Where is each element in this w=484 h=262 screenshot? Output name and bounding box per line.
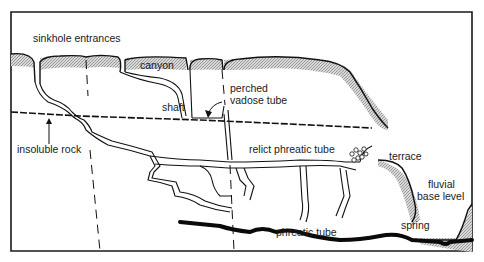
diagram-frame bbox=[11, 12, 472, 251]
label-spring: spring bbox=[401, 219, 430, 231]
label-relict-phreatic-tube: relict phreatic tube bbox=[249, 143, 335, 155]
label-terrace: terrace bbox=[389, 150, 422, 162]
label-canyon: canyon bbox=[140, 59, 174, 71]
label-sinkhole-entrances: sinkhole entrances bbox=[33, 32, 121, 44]
karst-diagram: sinkhole entrances canyon perched vadose… bbox=[0, 0, 484, 262]
label-base-level: base level bbox=[417, 190, 464, 202]
label-perched: perched bbox=[230, 82, 268, 94]
joints bbox=[86, 60, 234, 251]
label-vadose-tube: vadose tube bbox=[230, 94, 287, 106]
arrows bbox=[46, 102, 222, 144]
label-phreatic-tube: phreatic tube bbox=[276, 226, 337, 238]
label-insoluble-rock: insoluble rock bbox=[17, 143, 82, 155]
label-shaft: shaft bbox=[162, 101, 185, 113]
label-fluvial: fluvial bbox=[428, 178, 455, 190]
terrace-gravels bbox=[350, 147, 368, 162]
